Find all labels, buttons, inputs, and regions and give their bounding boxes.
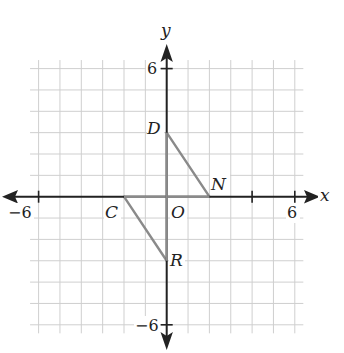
y-axis-label: y <box>160 20 171 40</box>
x-max-tick-label: 6 <box>287 203 297 222</box>
point-label-r: R <box>169 250 183 270</box>
x-axis-label: x <box>320 185 330 205</box>
point-label-c: C <box>105 202 118 222</box>
y-min-tick-label: −6 <box>135 316 159 335</box>
origin-label: O <box>171 202 185 222</box>
point-label-d: D <box>146 118 161 138</box>
point-label-n: N <box>210 174 227 194</box>
x-min-tick-label: −6 <box>8 203 32 222</box>
coordinate-plane: x y −6 6 6 −6 D N C O R <box>0 0 344 353</box>
y-max-tick-label: 6 <box>147 59 157 78</box>
